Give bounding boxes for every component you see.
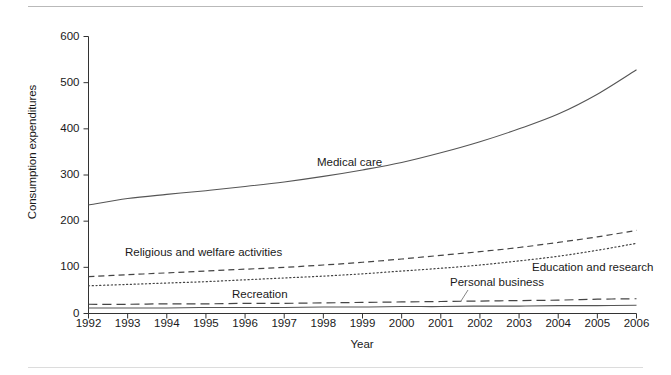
annotation-leader-lines [461, 290, 468, 301]
axis-tick-marks [84, 37, 637, 319]
chart-figure: Consumption expenditures Year 0100200300… [0, 0, 671, 375]
series-line [89, 299, 637, 305]
axis-lines [89, 37, 637, 314]
data-series-lines [89, 70, 637, 308]
series-line [89, 230, 637, 276]
personal-business-leader-line [461, 290, 468, 301]
plot-canvas [0, 0, 671, 375]
series-line [89, 70, 637, 205]
series-line [89, 243, 637, 285]
series-line [89, 305, 637, 308]
